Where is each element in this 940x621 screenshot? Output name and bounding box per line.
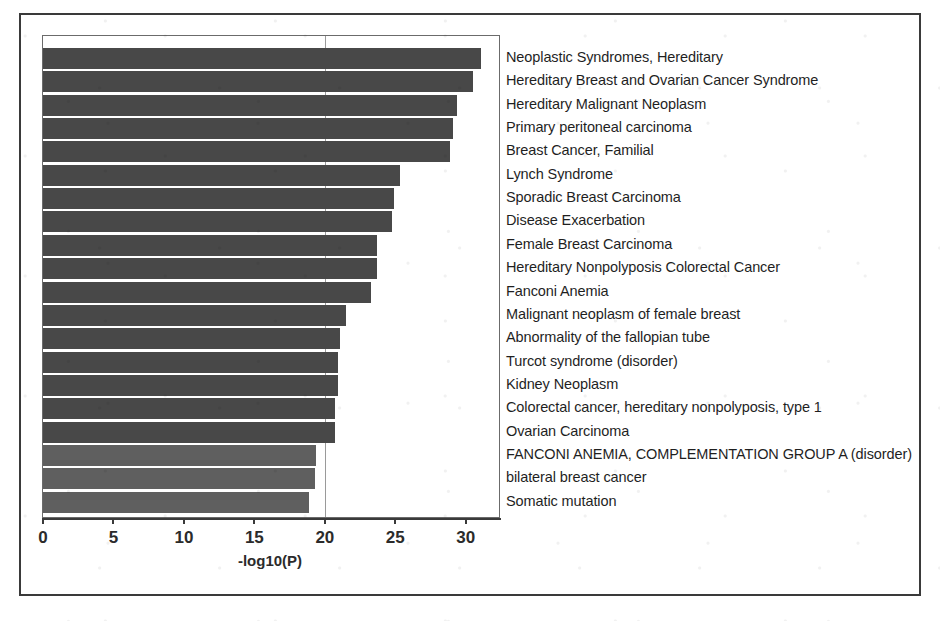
bar-row[interactable] [43,258,377,279]
category-label: Disease Exacerbation [506,212,645,228]
x-tick-mark [183,518,185,524]
bar-row[interactable] [43,352,338,373]
bar-row[interactable] [43,282,371,303]
category-label: Sporadic Breast Carcinoma [506,189,681,205]
x-tick-label: 15 [245,528,264,548]
bar-row[interactable] [43,211,392,232]
x-tick-mark [112,518,114,524]
bar[interactable] [43,468,315,489]
bar[interactable] [43,445,316,466]
category-label: Hereditary Malignant Neoplasm [506,96,706,112]
category-label: Neoplastic Syndromes, Hereditary [506,49,723,65]
bar[interactable] [43,48,481,69]
bar-row[interactable] [43,141,450,162]
category-label: Hereditary Nonpolyposis Colorectal Cance… [506,259,780,275]
bar-row[interactable] [43,305,346,326]
x-axis-title: -log10(P) [238,552,302,569]
bar[interactable] [43,305,346,326]
bar[interactable] [43,211,392,232]
category-label: Abnormality of the fallopian tube [506,329,710,345]
bar[interactable] [43,282,371,303]
x-tick-mark [324,518,326,524]
category-label: Female Breast Carcinoma [506,236,672,252]
category-label: Somatic mutation [506,493,616,509]
bar[interactable] [43,352,338,373]
x-tick-mark [394,518,396,524]
category-label: Fanconi Anemia [506,283,609,299]
bar-row[interactable] [43,468,315,489]
x-tick-label: 20 [315,528,334,548]
category-label: Colorectal cancer, hereditary nonpolypos… [506,399,822,415]
bar-row[interactable] [43,328,340,349]
bar-row[interactable] [43,48,481,69]
category-labels: Neoplastic Syndromes, HereditaryHeredita… [506,35,926,518]
bar-row[interactable] [43,165,400,186]
bar-row[interactable] [43,375,338,396]
bar[interactable] [43,71,473,92]
bar[interactable] [43,422,335,443]
bar-row[interactable] [43,422,335,443]
bar[interactable] [43,375,338,396]
bar-row[interactable] [43,492,309,513]
bar-row[interactable] [43,118,453,139]
category-label: Kidney Neoplasm [506,376,618,392]
bar-row[interactable] [43,188,394,209]
x-tick-mark [465,518,467,524]
enrichment-bar-chart: -log10(P) Neoplastic Syndromes, Heredita… [0,0,940,621]
category-label: Malignant neoplasm of female breast [506,306,740,322]
category-label: Breast Cancer, Familial [506,142,654,158]
bar[interactable] [43,235,377,256]
x-tick-label: 5 [109,528,118,548]
x-tick-mark [253,518,255,524]
bar-row[interactable] [43,398,335,419]
x-tick-mark [42,518,44,524]
category-label: Hereditary Breast and Ovarian Cancer Syn… [506,72,818,88]
bar-series [43,36,499,517]
category-label: FANCONI ANEMIA, COMPLEMENTATION GROUP A … [506,446,912,462]
bar[interactable] [43,398,335,419]
plot-area [42,35,500,518]
bar[interactable] [43,492,309,513]
bar[interactable] [43,165,400,186]
bar-row[interactable] [43,235,377,256]
x-tick-label: 10 [174,528,193,548]
category-label: Primary peritoneal carcinoma [506,119,692,135]
bar-row[interactable] [43,95,457,116]
category-label: Ovarian Carcinoma [506,423,629,439]
x-tick-label: 0 [38,528,47,548]
bar[interactable] [43,95,457,116]
bar[interactable] [43,188,394,209]
bar[interactable] [43,328,340,349]
bar[interactable] [43,118,453,139]
x-tick-label: 30 [456,528,475,548]
bar-row[interactable] [43,71,473,92]
x-tick-label: 25 [386,528,405,548]
category-label: Turcot syndrome (disorder) [506,353,678,369]
x-axis-line [42,518,501,520]
bar[interactable] [43,141,450,162]
bar[interactable] [43,258,377,279]
category-label: Lynch Syndrome [506,166,613,182]
category-label: bilateral breast cancer [506,469,646,485]
bar-row[interactable] [43,445,316,466]
